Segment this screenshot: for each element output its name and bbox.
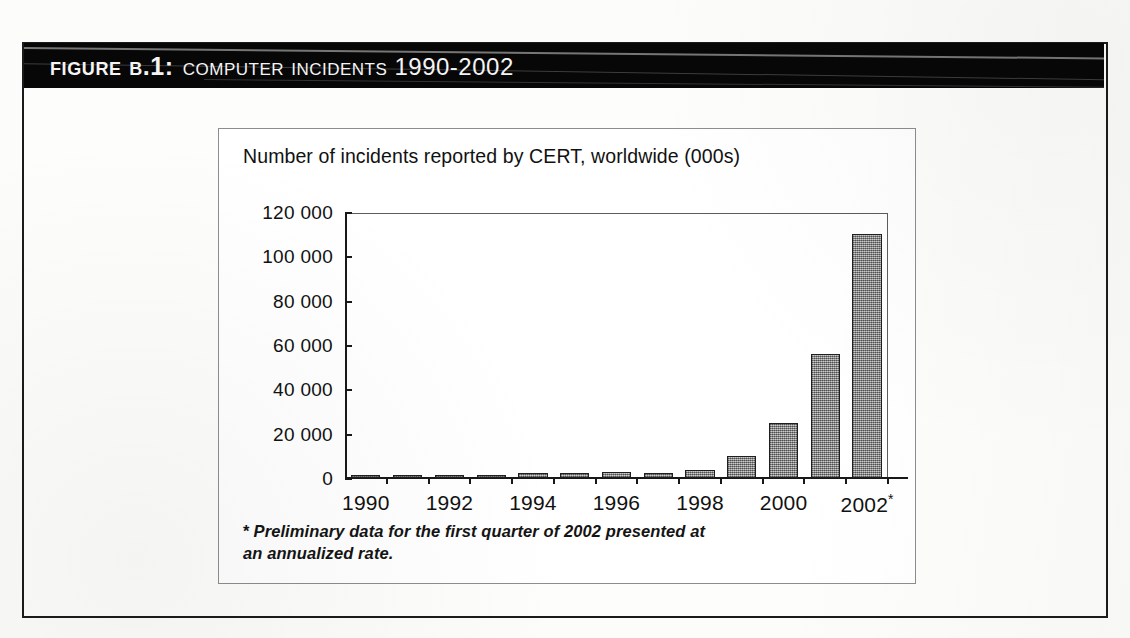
bar	[351, 475, 380, 478]
x-tick-mark	[386, 479, 388, 484]
plot-area: 020 00040 00060 00080 000100 000120 000 …	[345, 213, 917, 479]
y-tick-label-text: 80 000	[273, 291, 345, 312]
footnote-line-2: an annualized rate.	[243, 544, 393, 562]
bar	[602, 472, 631, 478]
x-tick-label: 1998	[676, 491, 724, 515]
x-tick-mark	[595, 479, 597, 484]
y-tick-label-text: 0	[322, 468, 345, 489]
bar	[393, 475, 422, 478]
chart-footnote: *Preliminary data for the first quarter …	[243, 521, 803, 565]
y-tick-label: 60 000	[273, 335, 345, 357]
y-tick-label: 0	[322, 468, 345, 490]
y-tick-label-text: 40 000	[273, 379, 345, 400]
figure-title: Figure B.1:Computer Incidents 1990-2002	[50, 52, 514, 81]
y-tick-label-text: 100 000	[262, 246, 345, 267]
x-tick-mark	[762, 479, 764, 484]
bar	[685, 470, 714, 478]
x-tick-mark	[720, 479, 722, 484]
y-tick-mark	[345, 212, 352, 214]
y-tick-label: 100 000	[262, 246, 345, 268]
bar	[852, 234, 881, 478]
chart-title: Number of incidents reported by CERT, wo…	[243, 145, 740, 168]
x-tick-mark	[845, 479, 847, 484]
x-tick-label: 2000	[760, 491, 808, 515]
bar	[769, 423, 798, 478]
x-tick-label: 1994	[509, 491, 557, 515]
figure-label: Figure B.1:	[50, 52, 174, 80]
x-tick-mark	[428, 479, 430, 484]
y-tick-mark	[345, 301, 352, 303]
y-tick-mark	[345, 345, 352, 347]
y-tick-mark	[345, 434, 352, 436]
x-tick-label: 1992	[426, 491, 474, 515]
y-tick-mark	[345, 256, 352, 258]
bar	[644, 473, 673, 478]
plot-top-rule	[345, 213, 888, 214]
x-tick-label: 1996	[593, 491, 641, 515]
plot-right-rule	[887, 213, 888, 480]
bar	[727, 456, 756, 478]
y-tick-label: 80 000	[273, 291, 345, 313]
x-tick-mark	[803, 479, 805, 484]
x-tick-mark	[469, 479, 471, 484]
y-tick-label: 20 000	[273, 424, 345, 446]
y-tick-label: 120 000	[262, 202, 345, 224]
x-tick-label: 2002*	[841, 491, 894, 517]
bar	[518, 473, 547, 478]
x-tick-mark	[511, 479, 513, 484]
y-tick-mark	[345, 389, 352, 391]
footnote-line-1: Preliminary data for the first quarter o…	[254, 522, 706, 540]
bar	[811, 354, 840, 478]
figure-title-banner: Figure B.1:Computer Incidents 1990-2002	[24, 43, 1104, 88]
bar	[560, 473, 589, 478]
chart-container: Number of incidents reported by CERT, wo…	[218, 128, 916, 584]
bar	[477, 475, 506, 478]
x-tick-mark	[887, 479, 889, 484]
x-tick-mark	[678, 479, 680, 484]
scanned-page: Figure B.1:Computer Incidents 1990-2002 …	[0, 0, 1130, 638]
x-tick-mark	[636, 479, 638, 484]
y-tick-label-text: 60 000	[273, 335, 345, 356]
x-tick-label: 1990	[342, 491, 390, 515]
figure-caption: Computer Incidents 1990-2002	[183, 53, 514, 80]
y-tick-label-text: 20 000	[273, 424, 345, 445]
y-tick-label-text: 120 000	[262, 202, 345, 223]
y-tick-label: 40 000	[273, 379, 345, 401]
x-tick-mark	[553, 479, 555, 484]
bar	[435, 475, 464, 478]
y-tick-mark	[345, 478, 352, 480]
footnote-marker: *	[243, 522, 250, 540]
